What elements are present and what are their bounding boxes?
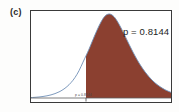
cutoff-axis-label: p = 0.8144	[75, 93, 92, 97]
panel-label: (c)	[10, 6, 22, 18]
distribution-plot	[31, 11, 172, 103]
p-value-annotation: p = 0.8144	[123, 26, 169, 37]
figure-panel: (c) p = 0.8144 p = 0.8144	[0, 0, 179, 112]
plot-frame: p = 0.8144 p = 0.8144	[30, 10, 172, 103]
